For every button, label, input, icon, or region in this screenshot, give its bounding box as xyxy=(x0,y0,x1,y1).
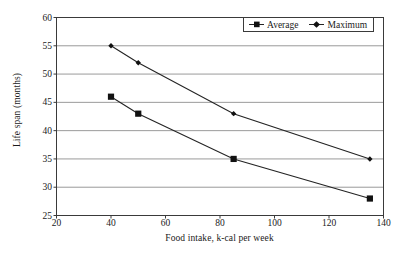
line-chart: Life span (months) 2530354045505560 2040… xyxy=(0,0,412,255)
datapoint-average-85 xyxy=(231,156,237,162)
data-series-layer xyxy=(108,43,373,202)
plot-frame xyxy=(57,18,384,216)
legend-marker-diamond-icon xyxy=(309,20,324,29)
legend-label-maximum: Maximum xyxy=(327,20,367,30)
legend-marker-square-icon xyxy=(249,20,264,29)
datapoint-average-135 xyxy=(367,195,373,201)
series-average xyxy=(108,94,373,202)
datapoint-maximum-135 xyxy=(367,156,372,161)
plot-frame-box xyxy=(57,18,384,216)
datapoint-maximum-50 xyxy=(136,60,141,65)
gridlines xyxy=(57,18,384,188)
datapoint-maximum-85 xyxy=(231,111,236,116)
plot-area xyxy=(0,0,412,255)
legend-entry-average: Average xyxy=(249,20,298,30)
legend-entry-maximum: Maximum xyxy=(309,20,367,30)
datapoint-maximum-40 xyxy=(108,43,113,48)
datapoint-average-40 xyxy=(108,94,114,100)
chart-legend: Average Maximum xyxy=(243,17,374,32)
legend-label-average: Average xyxy=(267,20,298,30)
series-line-average xyxy=(111,97,370,199)
datapoint-average-50 xyxy=(135,111,141,117)
